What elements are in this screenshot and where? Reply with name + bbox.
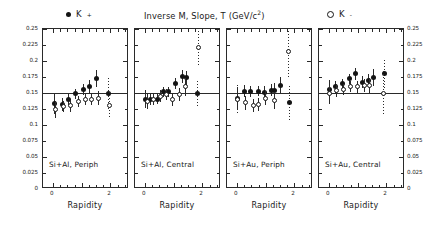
y-tick	[307, 61, 311, 62]
open-circle-marker	[177, 92, 182, 97]
x-tick	[145, 183, 146, 187]
y-tick	[43, 45, 46, 46]
x-tick	[202, 29, 203, 33]
x-tick	[343, 185, 344, 188]
y-tick-label-right: 0.1	[407, 121, 427, 127]
x-tick	[53, 29, 54, 33]
legend-k-minus-sup: -	[350, 11, 352, 18]
y-tick	[135, 109, 138, 110]
y-tick	[401, 77, 404, 78]
x-tick	[251, 29, 252, 32]
x-tick	[394, 185, 395, 188]
x-tick	[379, 29, 380, 32]
x-tick	[386, 183, 387, 187]
x-tick	[60, 185, 61, 188]
y-tick-label-left: 0.05	[8, 153, 38, 159]
x-tick	[202, 183, 203, 187]
x-tick	[152, 185, 153, 188]
x-tick	[336, 185, 337, 188]
panel-label-3: Si+Au, Periph	[233, 160, 285, 169]
open-circle-marker	[183, 84, 188, 89]
x-tick	[401, 29, 402, 32]
y-tick-label-left: 0.15	[8, 89, 38, 95]
open-circle-marker	[107, 103, 112, 108]
x-tick	[210, 29, 211, 32]
open-circle-marker	[76, 99, 81, 104]
legend-k-plus-sup: +	[87, 11, 92, 18]
y-tick	[227, 29, 231, 30]
open-circle-marker	[286, 49, 291, 54]
filled-circle-marker	[173, 81, 178, 86]
filled-circle-marker	[371, 75, 376, 80]
x-tick	[386, 29, 387, 33]
x-tick	[394, 29, 395, 32]
open-circle-marker	[367, 83, 372, 88]
filled-circle-icon	[66, 12, 71, 17]
x-tick	[280, 185, 281, 188]
y-tick	[43, 141, 46, 142]
y-tick-label-right: 0.125	[407, 105, 427, 111]
y-tick	[319, 29, 323, 30]
x-tick	[210, 185, 211, 188]
y-tick	[43, 157, 47, 158]
y-tick-label-right: 0.075	[407, 137, 427, 143]
x-tick	[294, 183, 295, 187]
x-tick	[75, 185, 76, 188]
y-tick	[319, 141, 322, 142]
x-tick	[329, 183, 330, 187]
y-tick	[43, 61, 47, 62]
x-tick-label: 0	[326, 190, 330, 196]
y-tick	[217, 77, 220, 78]
x-tick	[351, 29, 352, 32]
open-circle-marker	[196, 45, 201, 50]
y-tick-label-left: 0.225	[8, 41, 38, 47]
x-tick	[89, 29, 90, 32]
x-tick	[174, 29, 175, 33]
y-tick	[123, 157, 127, 158]
y-tick	[227, 141, 230, 142]
x-tick	[302, 185, 303, 188]
y-tick	[217, 173, 220, 174]
y-tick	[309, 45, 312, 46]
x-tick	[336, 29, 337, 32]
y-tick-label-right: 0.025	[407, 169, 427, 175]
y-tick	[217, 109, 220, 110]
open-circle-marker	[251, 103, 256, 108]
x-tick	[110, 29, 111, 33]
open-circle-marker	[145, 99, 150, 104]
y-tick	[227, 77, 230, 78]
x-axis-title-1: Rapidity	[42, 201, 128, 210]
y-tick	[43, 93, 47, 94]
x-tick-label: 0	[142, 190, 146, 196]
y-tick	[227, 61, 231, 62]
y-tick-label-left: 0.2	[8, 57, 38, 63]
x-tick	[159, 185, 160, 188]
y-tick	[309, 77, 312, 78]
x-tick	[53, 183, 54, 187]
y-tick-label-right: 0.225	[407, 41, 427, 47]
x-tick	[372, 29, 373, 32]
x-tick	[174, 183, 175, 187]
open-circle-marker	[362, 83, 367, 88]
x-tick	[401, 185, 402, 188]
y-tick	[227, 157, 231, 158]
open-circle-marker	[381, 91, 386, 96]
x-tick	[96, 185, 97, 188]
x-tick	[273, 29, 274, 32]
y-tick-label-left: 0.25	[8, 25, 38, 31]
open-circle-marker	[83, 97, 88, 102]
x-tick	[181, 29, 182, 32]
x-axis-title-3: Rapidity	[226, 201, 312, 210]
x-tick-label: 2	[107, 190, 111, 196]
y-tick	[309, 141, 312, 142]
x-tick	[82, 29, 83, 33]
open-circle-marker	[327, 91, 332, 96]
y-tick	[217, 45, 220, 46]
y-tick-label-right: 0.15	[407, 89, 427, 95]
y-tick	[227, 45, 230, 46]
x-tick	[273, 185, 274, 188]
filled-circle-marker	[94, 76, 99, 81]
y-tick	[135, 77, 138, 78]
y-tick	[309, 109, 312, 110]
y-tick	[215, 61, 219, 62]
